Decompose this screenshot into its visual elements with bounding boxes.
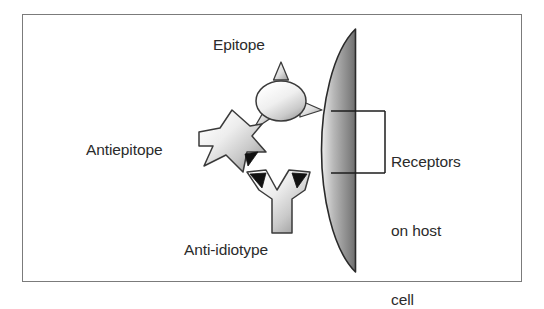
epitope-antigen [253, 62, 322, 130]
label-receptors-line-3: cell [391, 288, 461, 309]
label-epitope: Epitope [213, 35, 265, 54]
label-receptors-on-host-cell: Receptors on host cell [391, 104, 461, 309]
label-receptors-line-2: on host [391, 219, 461, 242]
label-antiepitope: Antiepitope [86, 140, 162, 159]
antiepitope-antibody [199, 110, 266, 172]
label-anti-idiotype: Anti-idiotype [184, 240, 268, 259]
host-cell-membrane [322, 29, 356, 272]
label-receptors-line-1: Receptors [391, 150, 461, 173]
anti-idiotype-antibody [247, 170, 310, 233]
